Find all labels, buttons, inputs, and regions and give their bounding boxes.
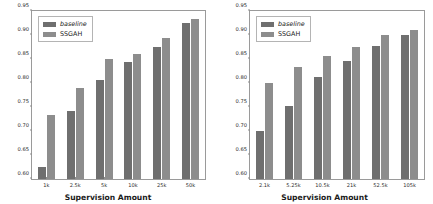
x-axis-tick-label: 5.25k	[286, 182, 300, 188]
bar-baseline	[124, 62, 132, 179]
bar-baseline	[372, 46, 380, 179]
legend-swatch-baseline-icon	[43, 22, 56, 27]
x-axis-tick-label: 52.5k	[373, 182, 387, 188]
x-axis-tick-label: 25k	[157, 182, 166, 188]
x-axis-tick-mark	[323, 177, 324, 180]
y-axis-tick-mark	[30, 106, 33, 107]
y-axis-tick-mark	[248, 10, 251, 11]
legend-item-baseline: baseline	[43, 20, 87, 28]
x-axis-tick-label: 50k	[186, 182, 195, 188]
plot-area-left: baseline SSGAH 1k2.5k5k10k25k50k 0.600.6…	[31, 10, 206, 180]
bar-group: 10k	[124, 11, 141, 179]
plot-wrapper-right: mean Average Precision baseline SSGAH 2.…	[216, 0, 433, 204]
y-axis-tick-label: 0.70	[17, 122, 32, 128]
y-axis-tick-mark	[30, 58, 33, 59]
bar-baseline	[96, 80, 104, 179]
y-axis-tick-mark	[248, 34, 251, 35]
bar-baseline	[256, 131, 264, 179]
legend-label-ssgah: SSGAH	[278, 30, 300, 38]
y-axis-tick-label: 0.75	[235, 98, 250, 104]
y-axis-tick-label: 0.60	[17, 170, 32, 176]
bar-ssgah	[352, 47, 360, 179]
x-axis-tick-label: 5k	[101, 182, 107, 188]
x-axis-tick-label: 21k	[347, 182, 356, 188]
y-axis-tick-mark	[30, 154, 33, 155]
y-axis-tick-label: 0.75	[17, 98, 32, 104]
bar-group: 105k	[401, 11, 418, 179]
legend-right: baseline SSGAH	[256, 16, 311, 42]
bar-group: 21k	[343, 11, 360, 179]
bar-ssgah	[76, 88, 84, 179]
y-axis-tick-label: 0.95	[17, 2, 32, 8]
bar-group: 10.5k	[314, 11, 331, 179]
bar-ssgah	[410, 30, 418, 179]
y-axis-tick-mark	[248, 106, 251, 107]
y-axis-tick-mark	[248, 178, 251, 179]
y-axis-tick-label: 0.60	[235, 170, 250, 176]
bar-group: 50k	[182, 11, 199, 179]
x-axis-tick-label: 105k	[403, 182, 416, 188]
legend-swatch-baseline-icon	[261, 22, 274, 27]
y-axis-tick-mark	[248, 58, 251, 59]
x-axis-tick-mark	[162, 177, 163, 180]
y-axis-tick-mark	[248, 130, 251, 131]
bar-baseline	[401, 35, 409, 179]
y-axis-tick-label: 0.80	[235, 74, 250, 80]
legend-label-baseline: baseline	[278, 20, 305, 28]
legend-label-ssgah: SSGAH	[60, 30, 82, 38]
bar-ssgah	[381, 35, 389, 179]
x-axis-tick-mark	[352, 177, 353, 180]
y-axis-tick-mark	[30, 178, 33, 179]
bar-baseline	[343, 61, 351, 179]
bar-ssgah	[294, 67, 302, 179]
x-axis-tick-mark	[46, 177, 47, 180]
bar-ssgah	[133, 54, 141, 179]
y-axis-tick-label: 0.90	[235, 26, 250, 32]
bar-ssgah	[323, 56, 331, 179]
x-axis-tick-mark	[75, 177, 76, 180]
x-axis-tick-label: 10.5k	[315, 182, 329, 188]
x-axis-tick-mark	[133, 177, 134, 180]
bar-ssgah	[105, 59, 113, 179]
y-axis-tick-label: 0.65	[17, 146, 32, 152]
plot-area-right: baseline SSGAH 2.1k5.25k10.5k21k52.5k105…	[249, 10, 425, 180]
chart-panel-right: mean Average Precision baseline SSGAH 2.…	[216, 0, 433, 204]
y-axis-tick-mark	[30, 34, 33, 35]
bar-baseline	[38, 167, 46, 179]
legend-item-ssgah: SSGAH	[43, 30, 87, 38]
y-axis-tick-label: 0.70	[235, 122, 250, 128]
x-axis-tick-mark	[265, 177, 266, 180]
plot-wrapper-left: mean Average Precision baseline SSGAH 1k…	[0, 0, 216, 204]
x-axis-tick-mark	[294, 177, 295, 180]
y-axis-tick-mark	[30, 130, 33, 131]
y-axis-tick-mark	[30, 82, 33, 83]
y-axis-tick-mark	[30, 10, 33, 11]
x-axis-title-right: Supervision Amount	[216, 193, 433, 202]
x-axis-tick-mark	[381, 177, 382, 180]
x-axis-tick-label: 1k	[43, 182, 49, 188]
y-axis-tick-mark	[248, 82, 251, 83]
x-axis-title-left: Supervision Amount	[0, 193, 216, 202]
legend-swatch-ssgah-icon	[43, 32, 56, 37]
x-axis-tick-label: 2.5k	[70, 182, 81, 188]
y-axis-tick-mark	[248, 154, 251, 155]
bar-ssgah	[162, 38, 170, 179]
y-axis-tick-label: 0.85	[235, 50, 250, 56]
bar-ssgah	[265, 83, 273, 179]
bar-group: 52.5k	[372, 11, 389, 179]
x-axis-tick-label: 10k	[128, 182, 137, 188]
bar-baseline	[67, 111, 75, 179]
bar-baseline	[314, 77, 322, 179]
legend-label-baseline: baseline	[60, 20, 87, 28]
y-axis-tick-label: 0.80	[17, 74, 32, 80]
x-axis-tick-mark	[104, 177, 105, 180]
x-axis-tick-label: 2.1k	[259, 182, 270, 188]
y-axis-tick-label: 0.85	[17, 50, 32, 56]
bar-group: 5k	[96, 11, 113, 179]
bar-ssgah	[47, 115, 55, 179]
bar-baseline	[182, 23, 190, 179]
chart-panel-left: mean Average Precision baseline SSGAH 1k…	[0, 0, 216, 204]
x-axis-tick-mark	[191, 177, 192, 180]
y-axis-tick-label: 0.65	[235, 146, 250, 152]
legend-item-baseline: baseline	[261, 20, 305, 28]
